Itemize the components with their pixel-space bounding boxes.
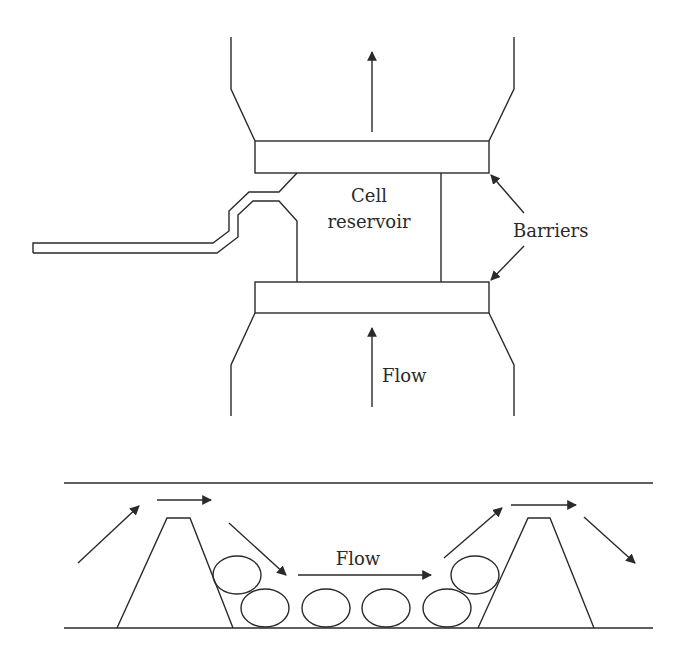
cell-particle: [213, 556, 261, 594]
cell-particle: [423, 589, 471, 627]
cell-particle: [302, 589, 350, 627]
flow-arrow-up-right-icon: [444, 508, 502, 558]
inlet-flow-label: Flow: [382, 365, 427, 386]
flow-arrow-down-right-icon: [229, 523, 286, 575]
barrier-pointer-upper-arrow-icon: [491, 175, 524, 213]
lower-barrier: [255, 282, 489, 313]
inlet-channel-lower-wall: [33, 201, 297, 282]
outlet-right-wall: [489, 37, 514, 141]
side-flow-label: Flow: [336, 548, 381, 569]
main-inlet-right-wall: [489, 313, 514, 416]
main-inlet-left-wall: [231, 313, 255, 416]
right-weir-barrier: [478, 518, 594, 628]
barriers-label: Barriers: [513, 220, 588, 241]
flow-arrow-up-right-icon: [78, 506, 139, 563]
reservoir-label-line1: Cell: [351, 185, 387, 206]
outlet-left-wall: [231, 37, 255, 141]
reservoir-label-line2: reservoir: [327, 211, 411, 232]
barrier-pointer-lower-arrow-icon: [491, 246, 524, 280]
flow-arrow-down-right-icon: [584, 517, 635, 563]
inlet-channel-upper-wall: [33, 173, 297, 253]
microfluidic-diagram: Cell reservoir Barriers Flow: [0, 0, 675, 656]
side-view: Flow: [64, 483, 653, 628]
upper-barrier: [255, 141, 489, 173]
cell-particle: [241, 589, 289, 627]
cell-particle: [362, 589, 410, 627]
top-view: Cell reservoir Barriers Flow: [33, 37, 588, 416]
cell-particle: [451, 556, 499, 594]
left-weir-barrier: [117, 518, 233, 628]
